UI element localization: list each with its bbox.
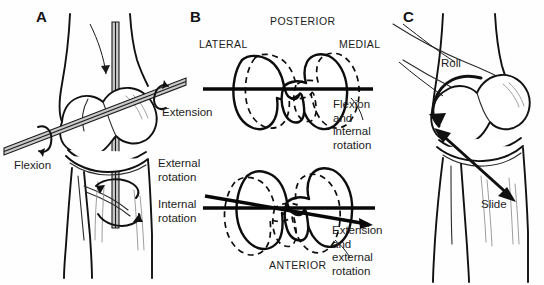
panel-c: C <box>385 0 544 285</box>
panel-c-label-slide: Slide <box>481 198 507 212</box>
panel-b-label-anterior: ANTERIOR <box>269 259 326 273</box>
panel-b-label-extension-external-rotation: Extension and external rotation <box>332 224 390 278</box>
panel-c-illustration <box>385 0 544 285</box>
panel-b-label-medial: MEDIAL <box>339 38 381 52</box>
panel-a-label-flexion: Flexion <box>14 159 51 173</box>
panel-b-label-flexion-internal-rotation: Flexion and internal rotation <box>333 98 390 152</box>
panel-c-label-roll: Roll <box>441 57 461 71</box>
panel-b-label-posterior: POSTERIOR <box>270 15 335 29</box>
knee-kinematics-figure: A <box>0 0 544 285</box>
panel-a: A <box>0 0 195 285</box>
panel-b: B <box>185 0 390 285</box>
panel-a-illustration <box>0 0 195 285</box>
panel-b-label-lateral: LATERAL <box>199 38 248 52</box>
